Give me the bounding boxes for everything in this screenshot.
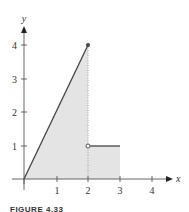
y-tick-label-1: 1 <box>12 141 17 152</box>
x-tick-label-3: 3 <box>118 185 123 196</box>
y-tick-label-2: 2 <box>12 107 17 118</box>
y-axis-arrow-icon <box>21 26 27 33</box>
y-tick-label-3: 3 <box>12 74 17 85</box>
y-tick-label-4: 4 <box>12 40 17 51</box>
open-endpoint-2-1 <box>86 144 90 148</box>
x-tick-label-4: 4 <box>150 185 155 196</box>
shaded-region-rectangle <box>88 146 120 179</box>
x-tick-label-1: 1 <box>55 185 60 196</box>
x-axis-label: x <box>175 173 181 184</box>
x-tick-label-2: 2 <box>86 185 91 196</box>
figure-caption: FIGURE 4.33 <box>10 205 64 212</box>
piecewise-function-chart: 1 2 3 4 1 2 3 4 x y <box>0 0 189 212</box>
closed-endpoint-2-4 <box>86 43 90 47</box>
x-axis-arrow-icon <box>166 176 173 182</box>
y-axis-label: y <box>21 13 27 24</box>
